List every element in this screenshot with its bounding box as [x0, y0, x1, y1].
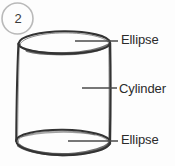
label-cylinder: Cylinder — [119, 81, 166, 96]
label-top-ellipse: Ellipse — [121, 32, 159, 47]
figure-canvas: 2 Ellipse Cylinder Ellipse — [0, 0, 175, 166]
cylinder-right-wall — [109, 43, 111, 143]
figure-number-label: 2 — [0, 2, 36, 36]
cylinder-drawing — [16, 31, 110, 155]
cylinder-left-wall — [16, 44, 19, 141]
label-bottom-ellipse: Ellipse — [121, 132, 159, 147]
bottom-ellipse-shape — [16, 130, 110, 155]
